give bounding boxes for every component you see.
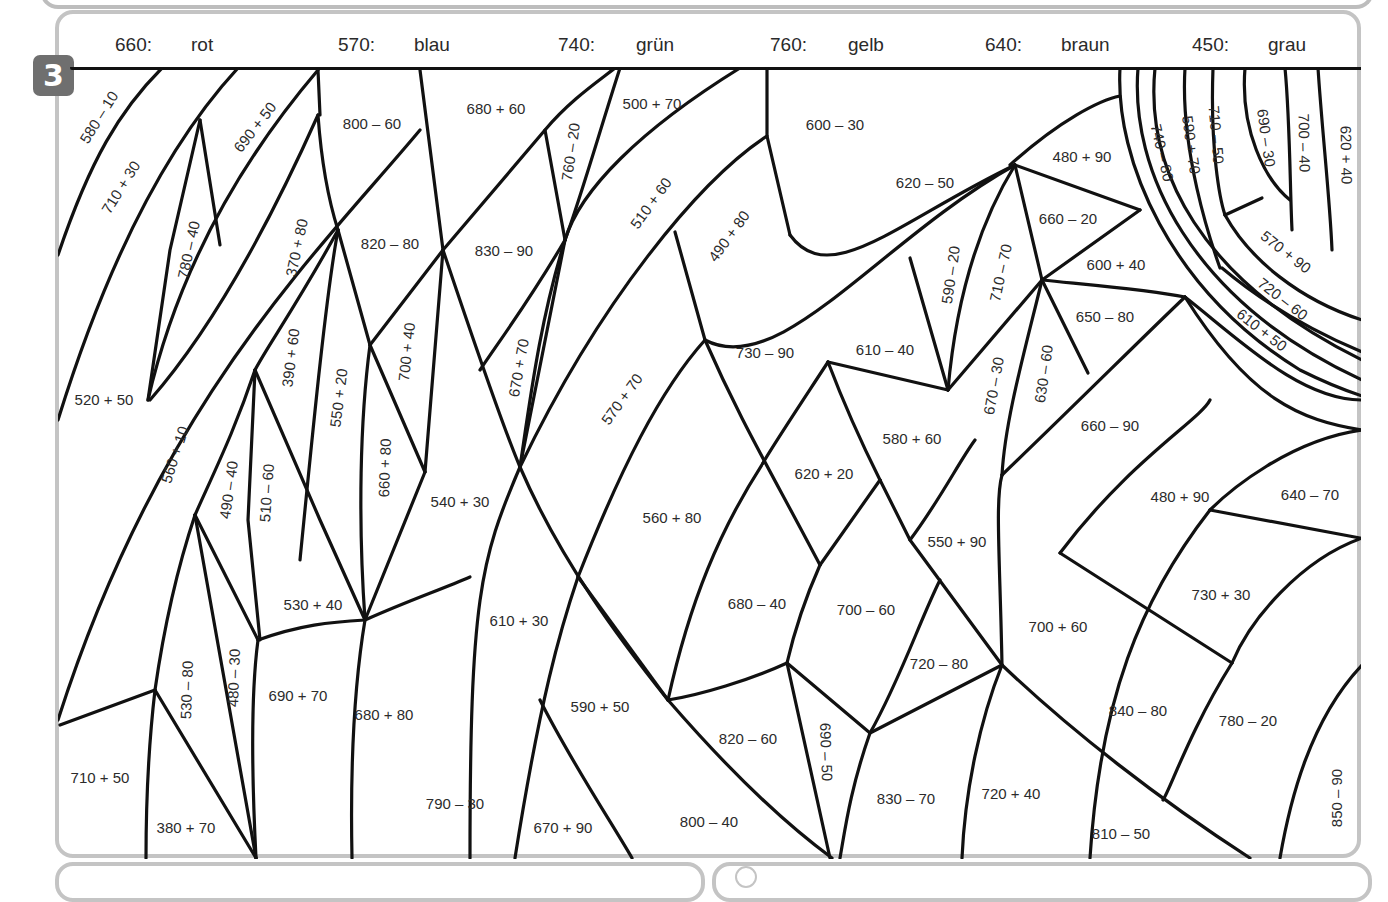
cell-expression: 510 – 60 [256, 463, 277, 522]
cell-expression: 480 + 90 [1151, 488, 1210, 505]
cell-expression: 780 – 40 [174, 219, 203, 280]
cell-expression: 600 – 30 [806, 116, 864, 133]
cell-expression: 720 – 80 [910, 655, 968, 672]
cell-expression: 610 – 40 [856, 341, 914, 358]
cell-expression: 620 + 20 [795, 465, 854, 482]
cell-expression: 640 – 70 [1281, 486, 1339, 503]
cell-expression: 550 + 90 [928, 533, 987, 550]
cell-expression: 480 + 90 [1053, 148, 1112, 165]
cell-expression: 490 – 40 [216, 460, 241, 520]
cell-expression: 820 – 60 [719, 730, 777, 747]
cell-expression: 670 + 90 [534, 819, 593, 836]
cell-expression: 580 – 10 [76, 88, 121, 147]
cell-expression: 780 – 20 [1219, 712, 1277, 729]
cell-expression: 630 – 60 [1031, 344, 1056, 404]
cell-expression: 790 – 30 [426, 795, 484, 812]
cell-expression: 620 – 50 [896, 174, 954, 191]
cell-expression: 690 – 50 [817, 722, 836, 781]
cell-expression: 590 + 50 [571, 698, 630, 715]
cell-expression: 670 + 70 [505, 337, 532, 398]
cell-expression: 590 + 70 [1179, 114, 1204, 175]
cell-expression: 540 + 30 [431, 493, 490, 510]
cell-expression: 710 + 50 [71, 769, 130, 786]
cell-expression: 560 + 10 [157, 424, 191, 485]
cell-expression: 730 + 30 [1192, 586, 1251, 603]
cell-expression: 590 – 20 [938, 245, 963, 305]
cell-expression: 710 – 70 [986, 242, 1015, 303]
cell-expression: 830 – 90 [475, 242, 533, 259]
cell-expression: 680 + 60 [467, 100, 526, 117]
cell-expression: 680 – 40 [728, 595, 786, 612]
cell-expression: 830 – 70 [877, 790, 935, 807]
cell-expression: 550 + 20 [326, 368, 350, 428]
cell-expression: 710 – 50 [1206, 105, 1228, 165]
cell-expression: 570 + 90 [1258, 227, 1315, 277]
region-outlines [58, 68, 1362, 858]
cell-expression: 800 – 60 [343, 115, 401, 132]
cell-expression: 620 + 40 [1338, 125, 1356, 184]
cell-expression: 730 – 90 [736, 344, 794, 361]
cell-expression: 490 + 80 [705, 207, 753, 265]
cell-expression: 810 – 50 [1092, 825, 1150, 842]
cell-expression: 850 – 90 [1328, 769, 1345, 827]
cell-expression: 650 – 80 [1076, 308, 1134, 325]
cell-expression: 700 – 40 [1296, 114, 1314, 173]
cell-expression: 610 + 30 [490, 612, 549, 629]
cell-expression: 700 + 60 [1029, 618, 1088, 635]
cell-expression: 700 – 60 [837, 601, 895, 618]
cell-expression: 570 + 70 [598, 370, 646, 428]
cell-expression: 510 + 60 [627, 174, 675, 232]
cell-expression: 660 – 90 [1081, 417, 1139, 434]
cell-expression: 670 – 30 [980, 356, 1007, 416]
cell-expression: 660 – 20 [1039, 210, 1097, 227]
cell-expression: 680 + 80 [355, 706, 414, 723]
cell-expression: 690 + 70 [269, 687, 328, 704]
cell-expression: 530 – 80 [177, 660, 196, 719]
cell-expression: 720 + 40 [982, 785, 1041, 802]
cell-expression: 530 + 40 [284, 596, 343, 613]
cell-expression: 500 + 70 [623, 95, 682, 112]
cell-expression: 560 + 80 [643, 509, 702, 526]
cell-expression: 600 + 40 [1087, 256, 1146, 273]
cell-expression: 710 + 30 [98, 158, 144, 217]
cell-expression: 690 – 30 [1254, 108, 1279, 168]
cell-expression: 840 – 80 [1109, 702, 1167, 719]
cell-labels: 580 – 10710 + 30690 + 50780 – 40800 – 60… [71, 88, 1356, 842]
cell-expression: 760 – 20 [558, 122, 583, 182]
cell-expression: 380 + 70 [157, 819, 216, 836]
cell-expression: 480 – 30 [224, 648, 243, 707]
cell-expression: 660 + 80 [375, 438, 394, 497]
cell-expression: 390 + 60 [278, 328, 302, 388]
cell-expression: 370 + 80 [282, 217, 311, 278]
cell-expression: 820 – 80 [361, 235, 419, 252]
cell-expression: 520 + 50 [75, 391, 134, 408]
cell-expression: 800 – 40 [680, 813, 738, 830]
cell-expression: 700 + 40 [395, 322, 418, 382]
cell-expression: 580 + 60 [883, 430, 942, 447]
